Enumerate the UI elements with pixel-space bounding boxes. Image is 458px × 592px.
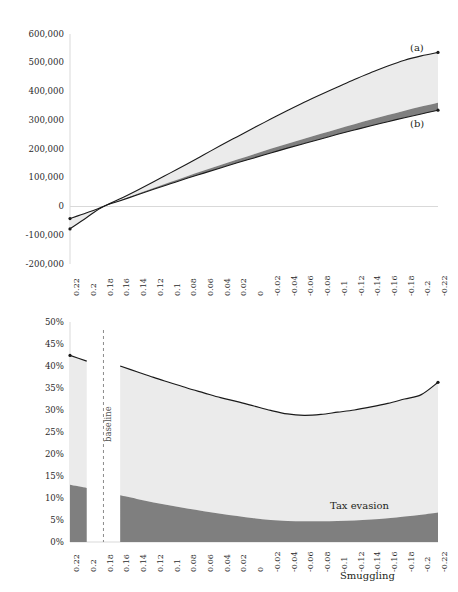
series-b-annotation: (b)	[410, 118, 424, 129]
top-y-tick-7: -100,000	[6, 231, 64, 240]
smuggling-label: Smuggling	[340, 570, 395, 581]
top-y-tick-1: 500,000	[6, 58, 64, 67]
top-x-tick-12: -0.02	[274, 275, 282, 296]
tax-evasion-label: Tax evasion	[330, 500, 389, 511]
top-x-tick-4: 0.14	[140, 278, 148, 296]
top-y-tick-4: 200,000	[6, 145, 64, 154]
bottom-x-tick-22: -0.22	[441, 551, 449, 572]
bottom-y-tick-6: 20%	[10, 450, 64, 459]
top-y-tick-8: -200,000	[6, 260, 64, 269]
top-x-tick-2: 0.18	[107, 278, 115, 296]
bottom-x-tick-17: -0.12	[358, 551, 366, 572]
chart-top: 600,000500,000400,000300,000200,000100,0…	[0, 0, 458, 300]
top-x-tick-6: 0.1	[174, 283, 182, 296]
top-x-tick-7: 0.08	[190, 278, 198, 296]
bottom-x-tick-21: -0.2	[424, 557, 432, 572]
bottom-y-tick-0: 50%	[10, 318, 64, 327]
bottom-y-tick-9: 5%	[10, 516, 64, 525]
top-y-tick-2: 400,000	[6, 87, 64, 96]
top-x-tick-5: 0.12	[157, 278, 165, 296]
bottom-x-tick-11: 0	[257, 567, 265, 572]
top-plot-area	[70, 34, 438, 264]
bottom-x-tick-5: 0.12	[157, 554, 165, 572]
bottom-y-tick-5: 25%	[10, 428, 64, 437]
top-x-tick-11: 0	[257, 291, 265, 296]
top-x-tick-8: 0.06	[207, 278, 215, 296]
top-x-tick-10: 0.02	[240, 278, 248, 296]
top-x-tick-22: -0.22	[441, 275, 449, 296]
top-x-tick-16: -0.1	[341, 281, 349, 296]
bottom-y-tick-3: 35%	[10, 384, 64, 393]
top-x-tick-13: -0.04	[291, 275, 299, 296]
bottom-x-tick-18: -0.14	[374, 551, 382, 572]
chart-bottom: 50%45%40%35%30%25%20%15%10%5%0% 0.220.20…	[0, 300, 458, 592]
top-x-tick-20: -0.18	[408, 275, 416, 296]
bottom-x-tick-10: 0.02	[240, 554, 248, 572]
top-x-tick-19: -0.16	[391, 275, 399, 296]
top-x-tick-9: 0.04	[224, 278, 232, 296]
figure-root: 600,000500,000400,000300,000200,000100,0…	[0, 0, 458, 592]
bottom-x-tick-15: -0.08	[324, 551, 332, 572]
top-y-tick-3: 300,000	[6, 116, 64, 125]
top-x-tick-18: -0.14	[374, 275, 382, 296]
top-x-tick-14: -0.06	[307, 275, 315, 296]
top-x-tick-3: 0.16	[123, 278, 131, 296]
top-y-tick-5: 100,000	[6, 173, 64, 182]
bottom-x-tick-6: 0.1	[174, 559, 182, 572]
bottom-x-tick-8: 0.06	[207, 554, 215, 572]
top-plot-svg	[70, 34, 438, 264]
bottom-y-tick-1: 45%	[10, 340, 64, 349]
bottom-x-tick-3: 0.16	[123, 554, 131, 572]
bottom-x-tick-12: -0.02	[274, 551, 282, 572]
top-x-tick-15: -0.08	[324, 275, 332, 296]
top-x-tick-0: 0.22	[73, 278, 81, 296]
bottom-y-tick-8: 10%	[10, 494, 64, 503]
baseline-label: baseline	[103, 406, 113, 442]
bottom-x-tick-0: 0.22	[73, 554, 81, 572]
top-x-tick-17: -0.12	[358, 275, 366, 296]
bottom-y-tick-2: 40%	[10, 362, 64, 371]
bottom-y-tick-7: 15%	[10, 472, 64, 481]
bottom-x-tick-13: -0.04	[291, 551, 299, 572]
bottom-x-tick-7: 0.08	[190, 554, 198, 572]
bottom-x-tick-20: -0.18	[408, 551, 416, 572]
bottom-x-tick-2: 0.18	[107, 554, 115, 572]
bottom-y-tick-4: 30%	[10, 406, 64, 415]
top-y-tick-0: 600,000	[6, 30, 64, 39]
bottom-y-tick-10: 0%	[10, 538, 64, 547]
top-y-tick-6: 0	[6, 202, 64, 211]
top-x-tick-21: -0.2	[424, 281, 432, 296]
top-x-tick-1: 0.2	[90, 283, 98, 296]
bottom-x-tick-9: 0.04	[224, 554, 232, 572]
bottom-x-tick-4: 0.14	[140, 554, 148, 572]
bottom-x-tick-1: 0.2	[90, 559, 98, 572]
series-a-annotation: (a)	[410, 42, 424, 53]
bottom-x-tick-14: -0.06	[307, 551, 315, 572]
bottom-x-tick-19: -0.16	[391, 551, 399, 572]
